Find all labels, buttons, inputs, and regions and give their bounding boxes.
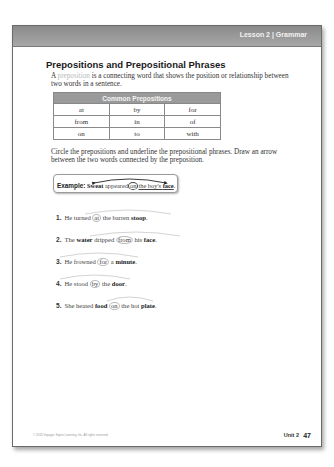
lesson-label: Lesson 2 | Grammar <box>240 31 307 38</box>
example-end: . <box>174 182 176 189</box>
item-preposition: at <box>92 214 101 222</box>
item-number: 1. <box>56 214 62 221</box>
item-subject: water <box>76 236 92 243</box>
example-phrase-text: the boy's <box>138 182 162 189</box>
exercise-item-4: 4.He stood by the door. <box>56 280 127 288</box>
item-preposition: from <box>116 236 133 244</box>
table-cell: of <box>165 116 221 128</box>
intro-prefix: A <box>51 72 58 80</box>
example-word1: Sweat <box>87 182 103 189</box>
item-text: the hot <box>120 302 141 309</box>
table-cell: in <box>109 116 165 128</box>
item-text: She heated <box>65 302 95 309</box>
item-text: He turned <box>65 214 93 221</box>
exercise-item-3: 3.He frowned for a minute. <box>56 258 137 266</box>
example-word2: face <box>163 182 174 189</box>
item-preposition: by <box>90 280 101 288</box>
table-row: from in of <box>54 116 221 128</box>
item-number: 4. <box>56 280 62 287</box>
table-row: on to with <box>54 128 221 140</box>
table-cell: for <box>165 104 221 116</box>
exercise-item-5: 5.She heated food on the hot plate. <box>56 302 157 310</box>
item-text: The <box>65 236 77 243</box>
table-cell: from <box>54 116 110 128</box>
example-sentence: Example: Sweat appearedonthe boy's face. <box>57 182 175 190</box>
item-text: his <box>133 236 144 243</box>
item-preposition: on <box>109 302 120 310</box>
intro-paragraph: A preposition is a connecting word that … <box>51 72 296 88</box>
header-bar: Lesson 2 | Grammar <box>13 26 321 47</box>
example-verb: appeared <box>103 182 128 189</box>
prepositions-table: Common Prepositions at by for from in of… <box>53 92 221 140</box>
item-text: He frowned <box>65 258 98 265</box>
item-text: He stood <box>65 280 90 287</box>
exercise-item-1: 1.He turned at the barren stoop. <box>56 214 148 222</box>
unit-label: Unit 2 <box>284 432 299 438</box>
item-object: face <box>144 236 155 243</box>
item-text: the barren <box>101 214 131 221</box>
item-5-arc-icon <box>105 294 205 302</box>
table-cell: by <box>109 104 165 116</box>
table-cell: to <box>109 128 165 140</box>
workbook-page: Lesson 2 | Grammar Prepositions and Prep… <box>12 25 322 447</box>
item-text: . <box>155 236 157 243</box>
example-phrase: the boy's face <box>138 182 173 189</box>
copyright-notice: © 2015 Voyager Sopris Learning, Inc. All… <box>33 433 108 437</box>
table-cell: on <box>54 128 110 140</box>
item-text: . <box>135 258 137 265</box>
item-number: 5. <box>56 302 62 309</box>
item-subject: food <box>95 302 107 309</box>
table-header: Common Prepositions <box>54 93 221 104</box>
item-4-arc-icon <box>58 272 158 280</box>
item-preposition: for <box>97 258 109 266</box>
instructions: Circle the prepositions and underline th… <box>51 148 301 164</box>
item-text: . <box>146 214 148 221</box>
table-cell: at <box>54 104 110 116</box>
item-number: 3. <box>56 258 62 265</box>
table-cell: with <box>165 128 221 140</box>
item-3-arc-icon <box>58 250 158 258</box>
item-text: . <box>125 280 127 287</box>
table-row: at by for <box>54 104 221 116</box>
example-box: Example: Sweat appearedonthe boy's face. <box>53 174 178 193</box>
exercise-item-2: 2.The water dripped from his face. <box>56 236 157 244</box>
intro-term: preposition <box>58 72 90 80</box>
item-text: the <box>100 280 111 287</box>
page-title: Prepositions and Prepositional Phrases <box>46 59 226 70</box>
item-object: plate <box>141 302 155 309</box>
item-object: minute <box>115 258 135 265</box>
example-label: Example: <box>57 182 85 189</box>
page-number: 47 <box>303 432 311 439</box>
item-text: dripped <box>93 236 116 243</box>
item-object: stoop <box>131 214 146 221</box>
item-number: 2. <box>56 236 62 243</box>
example-preposition-circle: on <box>128 182 138 190</box>
item-object: door <box>112 280 125 287</box>
item-text: . <box>155 302 157 309</box>
